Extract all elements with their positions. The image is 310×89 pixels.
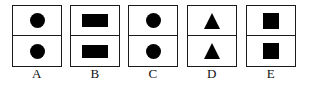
option-label-c: C: [128, 66, 178, 82]
option-c-bottom-cell: [129, 36, 177, 66]
option-label-e: E: [246, 66, 296, 82]
option-a-top-cell: [13, 6, 61, 36]
option-b-top-cell: [71, 6, 119, 36]
option-a-bottom-cell: [13, 36, 61, 66]
answer-option-b[interactable]: [70, 5, 120, 67]
filled-triangle-up-icon: [204, 43, 220, 59]
filled-triangle-up-icon: [204, 13, 220, 29]
filled-circle-icon: [146, 44, 161, 59]
option-box-b: [70, 5, 120, 67]
option-e-top-cell: [247, 6, 295, 36]
option-d-bottom-cell: [188, 36, 236, 66]
option-c-top-cell: [129, 6, 177, 36]
filled-circle-icon: [30, 44, 45, 59]
filled-circle-icon: [146, 13, 161, 28]
option-box-d: [187, 5, 237, 67]
filled-rectangle-icon: [82, 14, 108, 27]
filled-square-icon: [263, 13, 279, 29]
answer-option-c[interactable]: [128, 5, 178, 67]
answer-option-d[interactable]: [187, 5, 237, 67]
answer-option-e[interactable]: [246, 5, 296, 67]
answer-options-figure: A B C: [0, 0, 310, 89]
answer-option-a[interactable]: [12, 5, 62, 67]
option-box-e: [246, 5, 296, 67]
option-box-a: [12, 5, 62, 67]
filled-square-icon: [263, 43, 279, 59]
filled-circle-icon: [30, 13, 45, 28]
option-box-c: [128, 5, 178, 67]
filled-rectangle-icon: [82, 45, 108, 58]
option-e-bottom-cell: [247, 36, 295, 66]
option-d-top-cell: [188, 6, 236, 36]
option-b-bottom-cell: [71, 36, 119, 66]
option-label-d: D: [187, 66, 237, 82]
option-label-a: A: [12, 66, 62, 82]
option-label-b: B: [70, 66, 120, 82]
